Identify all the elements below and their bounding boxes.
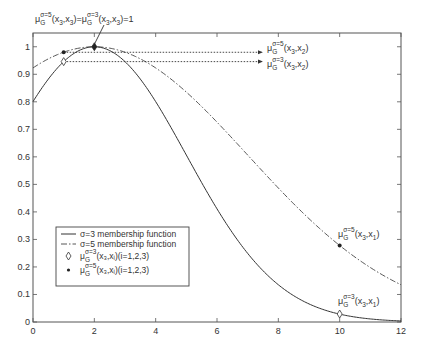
y-tick-label: 0.9 <box>17 69 30 79</box>
y-tick-label: 0.3 <box>17 234 30 244</box>
x-tick-label: 8 <box>276 326 281 336</box>
legend-dot-icon <box>67 268 70 271</box>
dot-marker-icon <box>92 45 96 49</box>
x-tick-label: 0 <box>30 326 35 336</box>
x-tick-label: 4 <box>153 326 158 336</box>
x-axis-ticks: 024681012 <box>30 33 406 336</box>
y-tick-label: 0.1 <box>17 289 30 299</box>
annotation-sigma5-x1: μGσ=5(x3,x1) <box>338 226 379 241</box>
dot-marker-icon <box>62 50 66 54</box>
y-tick-label: 0 <box>25 317 30 327</box>
x-tick-label: 10 <box>335 326 345 336</box>
y-tick-label: 0.6 <box>17 152 30 162</box>
annotation-sigma3-x2: μGσ=3(x3,x2) <box>267 56 308 71</box>
diamond-marker-icon <box>61 58 66 66</box>
pointer-line-top <box>94 25 104 45</box>
y-tick-label: 0.5 <box>17 179 30 189</box>
y-tick-label: 0.8 <box>17 97 30 107</box>
y-tick-label: 0.7 <box>17 124 30 134</box>
x-tick-label: 2 <box>92 326 97 336</box>
diamond-marker-icon <box>337 310 342 318</box>
legend: σ=3 membership function σ=5 membership f… <box>56 227 189 286</box>
legend-label-sigma3: σ=3 membership function <box>80 229 176 239</box>
y-tick-label: 0.4 <box>17 207 30 217</box>
y-tick-label: 1 <box>25 42 30 52</box>
y-tick-label: 0.2 <box>17 262 30 272</box>
annotation-sigma5-x2: μGσ=5(x3,x2) <box>267 40 308 55</box>
dot-marker-icon <box>338 243 342 247</box>
annotation-sigma3-x1: μGσ=3(x3,x1) <box>338 293 379 308</box>
x-tick-label: 12 <box>396 326 406 336</box>
membership-function-chart: 00.10.20.30.40.50.60.70.80.91 024681012 … <box>0 0 422 349</box>
x-tick-label: 6 <box>214 326 219 336</box>
annotation-top: μGσ=5(x3,x3)=μGσ=3(x3,x3)=1 <box>35 11 133 26</box>
